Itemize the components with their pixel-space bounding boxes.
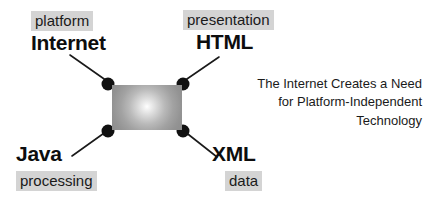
node-internet-title: Internet [31, 32, 106, 54]
node-xml-title: XML [212, 143, 262, 165]
gradient-core-box [112, 85, 182, 130]
node-java-title: Java [16, 143, 97, 165]
node-java-tag: processing [16, 171, 97, 191]
node-internet: platform Internet [31, 11, 106, 54]
architecture-diagram: platform Internet presentation HTML Java… [0, 0, 424, 205]
node-html: presentation HTML [183, 10, 274, 53]
diagram-caption: The Internet Creates a Need for Platform… [236, 75, 422, 130]
node-xml-tag: data [225, 171, 262, 191]
node-html-tag: presentation [183, 10, 274, 30]
node-xml: XML data [208, 143, 262, 191]
node-java: Java processing [16, 143, 97, 191]
node-internet-tag: platform [31, 11, 93, 31]
node-html-title: HTML [196, 31, 274, 53]
connector-line-internet [70, 55, 107, 81]
connector-line-html [184, 57, 219, 81]
